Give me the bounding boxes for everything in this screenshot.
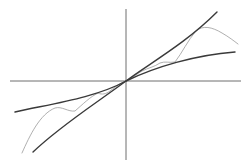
- flat-curve: [15, 52, 235, 112]
- function-diagram: [0, 0, 250, 163]
